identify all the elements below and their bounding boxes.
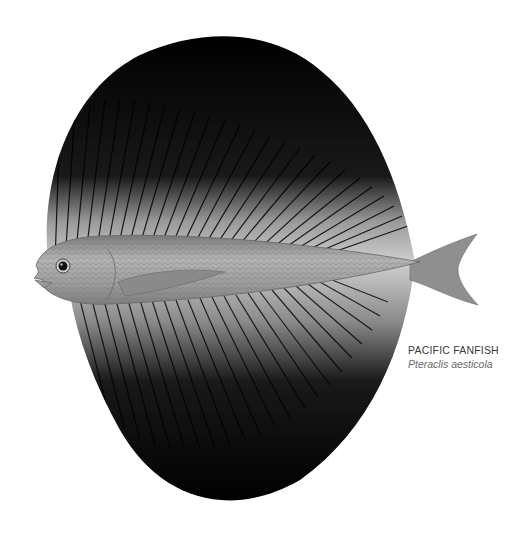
common-name: PACIFIC FANFISH bbox=[408, 343, 499, 357]
dorsal-fin bbox=[47, 36, 415, 262]
fanfish-illustration bbox=[0, 0, 509, 543]
caudal-fin bbox=[410, 234, 478, 305]
scientific-name: Pteraclis aesticola bbox=[408, 357, 499, 371]
species-caption: PACIFIC FANFISH Pteraclis aesticola bbox=[408, 343, 499, 371]
illustration-canvas: PACIFIC FANFISH Pteraclis aesticola bbox=[0, 0, 509, 543]
